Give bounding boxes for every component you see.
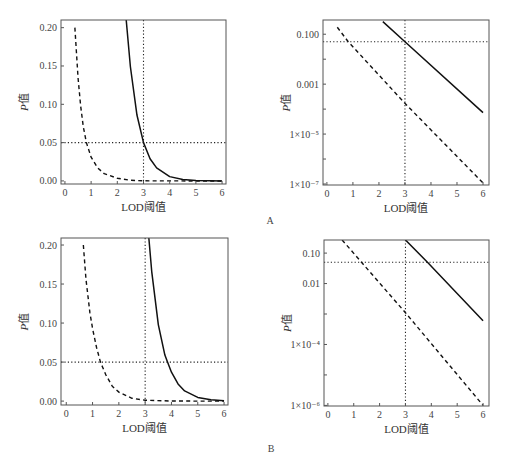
series-solid-line: [405, 240, 483, 321]
series-solid-line: [126, 20, 222, 181]
x-axis-title: LOD阈值: [122, 421, 167, 434]
x-tick-label: 3: [402, 188, 407, 199]
x-tick-label: 1: [90, 408, 95, 419]
x-tick-label: 0: [325, 409, 330, 420]
x-tick-label: 4: [429, 409, 434, 420]
plot-frame: [61, 238, 228, 405]
x-tick-label: 6: [222, 408, 227, 419]
y-axis-title: P值: [18, 93, 30, 112]
plot-a-log: 01234560.1000.0011×10⁻⁵1×10⁻⁷LOD阈值P值: [280, 20, 489, 214]
panel-label-a: A: [266, 215, 274, 226]
x-axis-title: LOD阈值: [384, 201, 429, 214]
x-tick-label: 3: [141, 187, 146, 198]
y-tick-label: 0.10: [303, 248, 321, 259]
plot-b-log: 01234560.100.011×10⁻⁴1×10⁻⁶LOD阈值P值: [281, 240, 489, 435]
y-tick-label: 0.10: [40, 318, 58, 329]
x-tick-label: 0: [64, 408, 69, 419]
y-tick-label: 0.20: [40, 22, 58, 33]
y-tick-label: 0.001: [297, 79, 320, 90]
y-axis-title: P值: [280, 94, 292, 113]
series-solid-line: [149, 238, 224, 401]
y-tick-label: 1×10⁻⁴: [291, 339, 321, 350]
series-dashed-line: [342, 240, 483, 405]
x-tick-label: 3: [143, 408, 148, 419]
y-tick-label: 0.100: [297, 29, 320, 40]
y-tick-label: 0.15: [40, 279, 58, 290]
x-tick-label: 1: [351, 409, 356, 420]
x-tick-label: 6: [481, 188, 486, 199]
x-tick-label: 5: [455, 409, 460, 420]
x-tick-label: 3: [403, 409, 408, 420]
y-tick-label: 0.01: [303, 278, 321, 289]
x-axis-title: LOD阈值: [121, 200, 166, 213]
y-tick-label: 0.00: [40, 175, 58, 186]
y-tick-label: 1×10⁻⁶: [291, 400, 321, 411]
x-tick-label: 1: [350, 188, 355, 199]
figure-canvas: 01234560.000.050.100.150.20LOD阈值P值 01234…: [0, 0, 506, 466]
x-tick-label: 2: [116, 408, 121, 419]
y-tick-label: 0.05: [40, 357, 58, 368]
x-tick-label: 4: [169, 408, 174, 419]
series-dashed-line: [337, 27, 483, 183]
series-dashed-line: [75, 28, 222, 181]
x-tick-label: 5: [195, 408, 200, 419]
x-tick-label: 2: [376, 188, 381, 199]
y-tick-label: 1×10⁻⁵: [290, 129, 319, 140]
panel-label-b: B: [268, 443, 275, 454]
y-axis-title: P值: [281, 314, 293, 333]
x-tick-label: 1: [89, 187, 94, 198]
x-tick-label: 6: [481, 409, 486, 420]
plot-frame: [323, 20, 489, 185]
x-tick-label: 0: [324, 188, 329, 199]
plot-b-linear: 01234560.000.050.100.150.20LOD阈值P值: [18, 238, 228, 434]
y-tick-label: 1×10⁻⁷: [290, 179, 320, 190]
x-axis-title: LOD阈值: [384, 422, 429, 435]
x-tick-label: 2: [115, 187, 120, 198]
y-tick-label: 0.05: [40, 137, 58, 148]
plot-frame: [324, 240, 489, 406]
x-tick-label: 2: [377, 409, 382, 420]
x-tick-label: 5: [193, 187, 198, 198]
x-tick-label: 4: [428, 188, 433, 199]
series-solid-line: [383, 22, 483, 113]
x-tick-label: 0: [62, 187, 67, 198]
y-tick-label: 0.15: [40, 60, 58, 71]
series-dashed-line: [83, 245, 224, 401]
x-tick-label: 4: [167, 187, 172, 198]
x-tick-label: 5: [454, 188, 459, 199]
y-tick-label: 0.20: [40, 240, 58, 251]
y-tick-label: 0.00: [40, 396, 58, 407]
y-axis-title: P值: [18, 313, 30, 332]
plot-a-linear: 01234560.000.050.100.150.20LOD阈值P值: [18, 20, 226, 213]
x-tick-label: 6: [220, 187, 225, 198]
y-tick-label: 0.10: [40, 99, 58, 110]
